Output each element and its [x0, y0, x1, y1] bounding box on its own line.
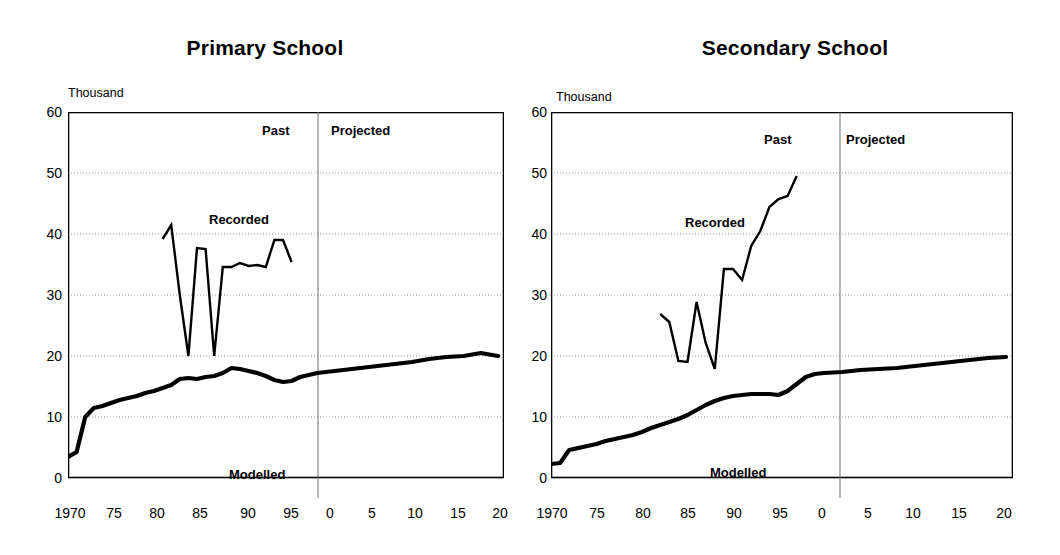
x-tick-2010: 10 [893, 505, 933, 521]
x-tick-85: 85 [180, 505, 220, 521]
series-modelled-secondary [551, 357, 1006, 464]
plot-frame [69, 113, 504, 478]
y-tick-10: 10 [36, 409, 62, 425]
x-tick-80: 80 [623, 505, 663, 521]
y-tick-60: 60 [36, 104, 62, 120]
unit-label-primary: Thousand [68, 86, 124, 100]
y-tick-40: 40 [521, 226, 547, 242]
y-tick-10: 10 [521, 409, 547, 425]
x-tick-2000: 0 [802, 505, 842, 521]
plot-svg-secondary [551, 112, 1013, 498]
y-tick-60: 60 [521, 104, 547, 120]
x-tick-90: 90 [714, 505, 754, 521]
x-tick-95: 95 [271, 505, 311, 521]
y-tick-20: 20 [36, 348, 62, 364]
annotation-past-secondary: Past [764, 132, 791, 147]
x-tick-2020: 20 [480, 505, 520, 521]
annotation-recorded-primary: Recorded [209, 212, 269, 227]
series-recorded-secondary [660, 176, 797, 369]
annotation-modelled-primary: Modelled [229, 467, 285, 482]
x-tick-80: 80 [137, 505, 177, 521]
x-tick-2015: 15 [438, 505, 478, 521]
annotation-modelled-secondary: Modelled [710, 465, 766, 480]
x-tick-2010: 10 [395, 505, 435, 521]
x-tick-1970: 1970 [532, 505, 572, 521]
plot-svg-primary [68, 112, 504, 498]
x-tick-2005: 5 [848, 505, 888, 521]
chart-panel-secondary: Secondary School Thousand 60 50 40 30 20… [530, 0, 1060, 555]
y-tick-50: 50 [36, 165, 62, 181]
chart-panel-primary: Primary School Thousand 60 50 40 30 20 1… [0, 0, 530, 555]
x-tick-75: 75 [94, 505, 134, 521]
annotation-past-primary: Past [262, 123, 289, 138]
series-modelled-primary [68, 353, 498, 457]
x-tick-1970: 1970 [50, 505, 90, 521]
x-tick-95: 95 [760, 505, 800, 521]
chart-title-primary: Primary School [0, 36, 530, 60]
annotation-projected-secondary: Projected [846, 132, 905, 147]
x-tick-2015: 15 [939, 505, 979, 521]
x-tick-2005: 5 [352, 505, 392, 521]
y-tick-20: 20 [521, 348, 547, 364]
y-tick-0: 0 [36, 470, 62, 486]
y-tick-0: 0 [521, 470, 547, 486]
x-tick-2000: 0 [310, 505, 350, 521]
gridlines [551, 173, 1013, 417]
unit-label-secondary: Thousand [556, 90, 612, 104]
chart-title-secondary: Secondary School [530, 36, 1060, 60]
x-tick-90: 90 [228, 505, 268, 521]
x-tick-2020: 20 [984, 505, 1024, 521]
plot-area-secondary [551, 112, 1013, 498]
x-tick-75: 75 [577, 505, 617, 521]
x-tick-85: 85 [668, 505, 708, 521]
series-recorded-primary [163, 225, 292, 356]
annotation-recorded-secondary: Recorded [685, 215, 745, 230]
plot-area-primary [68, 112, 504, 498]
y-tick-50: 50 [521, 165, 547, 181]
y-tick-40: 40 [36, 226, 62, 242]
y-tick-30: 30 [36, 287, 62, 303]
annotation-projected-primary: Projected [331, 123, 390, 138]
y-tick-30: 30 [521, 287, 547, 303]
